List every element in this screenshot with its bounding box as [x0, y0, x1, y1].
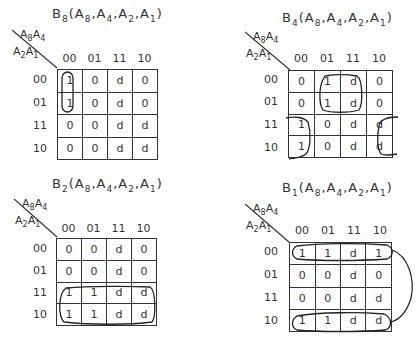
arg: A	[327, 180, 337, 195]
arg-sub: 2	[358, 188, 365, 198]
cell: d	[341, 92, 367, 114]
cell: 0	[315, 287, 341, 309]
arg-sub: 4	[336, 188, 343, 198]
grid-row: 01d0	[289, 71, 393, 93]
cell: 1	[315, 92, 341, 114]
grid-row: 10dd	[289, 114, 393, 136]
title-output: B	[282, 10, 292, 25]
var: A	[15, 214, 23, 227]
cell: 0	[83, 137, 108, 160]
cell: 0	[366, 71, 392, 93]
kmap-b8: B8(A8,A4,A2,A1) A8A4 A2A1 00 01 11 10 00…	[0, 0, 209, 170]
cell: 0	[83, 115, 108, 138]
arg: A	[118, 176, 128, 191]
cell: 0	[83, 70, 108, 93]
cell: d	[366, 136, 392, 158]
var-sub: 1	[35, 220, 40, 229]
arg-sub: 1	[380, 18, 387, 28]
kmap-grid: 00d0 00d0 11dd 11dd	[56, 238, 157, 326]
grid-row: 11dd	[290, 309, 392, 331]
arg: A	[327, 10, 337, 25]
cell: d	[108, 137, 133, 160]
map-title: B1(A8,A4,A2,A1)	[282, 180, 393, 198]
var-sub: 4	[273, 36, 278, 45]
cell: d	[341, 71, 367, 93]
arg: A	[305, 180, 315, 195]
title-output: B	[52, 6, 62, 21]
cell: 0	[366, 92, 392, 114]
row-header: 00	[261, 245, 281, 258]
cell: 1	[315, 71, 341, 93]
arg: A	[75, 6, 85, 21]
arg: A	[370, 10, 380, 25]
column-variables: A8A4	[253, 202, 278, 217]
cell: d	[366, 309, 392, 331]
cell: d	[108, 115, 133, 138]
cell: 1	[315, 243, 341, 265]
column-header: 11	[107, 52, 132, 65]
cell: 1	[366, 243, 392, 265]
cell: d	[341, 136, 367, 158]
cell: 0	[58, 137, 83, 160]
row-header: 01	[261, 95, 281, 108]
arg: A	[75, 176, 85, 191]
cell: 0	[83, 92, 108, 115]
row-header: 01	[30, 264, 50, 277]
row-header: 00	[30, 73, 50, 86]
column-header: 10	[367, 224, 393, 237]
cell: 0	[82, 260, 107, 282]
kmap-grid: 01d0 01d0 10dd 10dd	[288, 70, 393, 158]
cell: 0	[57, 260, 82, 282]
cell: 0	[315, 114, 341, 136]
var: A	[22, 197, 30, 210]
cell: 0	[131, 260, 156, 282]
row-variables: A2A1	[246, 219, 271, 234]
row-variables: A2A1	[13, 45, 38, 60]
column-header: 00	[289, 224, 315, 237]
arg: A	[118, 6, 128, 21]
map-title: B4(A8,A4,A2,A1)	[282, 10, 393, 28]
cell: 0	[315, 136, 341, 158]
grid-row: 00d0	[290, 265, 392, 287]
var: A	[20, 28, 28, 41]
column-header: 00	[288, 52, 314, 65]
column-header: 00	[57, 52, 82, 65]
column-header: 11	[340, 52, 366, 65]
cell: 1	[57, 282, 82, 304]
arg-sub: 4	[106, 184, 113, 194]
row-header: 11	[30, 286, 50, 299]
cell: 0	[366, 265, 392, 287]
arg-sub: 1	[150, 14, 157, 24]
arg: A	[97, 6, 107, 21]
grid-row: 00dd	[290, 287, 392, 309]
arg: A	[348, 10, 358, 25]
kmap-b1: B1(A8,A4,A2,A1) A8A4 A2A1 00 01 11 10 00…	[209, 170, 418, 340]
kmap-grid: 10d0 10d0 00dd 00dd	[57, 69, 158, 160]
arg-sub: 8	[85, 184, 92, 194]
grid-row: 00dd	[58, 137, 158, 160]
cell: d	[107, 304, 132, 326]
grid-row: 00d0	[57, 260, 157, 282]
column-header: 10	[131, 222, 156, 235]
cell: 1	[315, 309, 341, 331]
cell: d	[131, 304, 156, 326]
cell: d	[341, 114, 367, 136]
grid-row: 00dd	[58, 115, 158, 138]
arg: A	[140, 6, 150, 21]
grid-row: 00d0	[57, 239, 157, 261]
cell: 0	[289, 71, 315, 93]
kmap-b2: B2(A8,A4,A2,A1) A8A4 A2A1 00 01 11 10 00…	[0, 170, 209, 340]
title-output-sub: 4	[292, 18, 299, 28]
title-output: B	[282, 180, 292, 195]
cell: 0	[289, 92, 315, 114]
grid-row: 11dd	[57, 282, 157, 304]
row-header: 00	[261, 73, 281, 86]
var-sub: 1	[266, 225, 271, 234]
kmap-grid: 11d1 00d0 00dd 11dd	[289, 242, 392, 332]
title-output-sub: 2	[62, 184, 69, 194]
grid-row: 11d1	[290, 243, 392, 265]
cell: d	[132, 115, 157, 138]
row-header: 11	[30, 119, 50, 132]
row-header: 01	[261, 268, 281, 281]
var: A	[13, 45, 21, 58]
